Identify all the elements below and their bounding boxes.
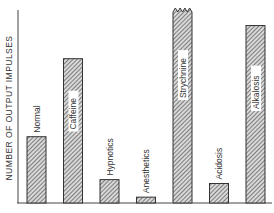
bar-label-normal: Normal: [32, 105, 42, 133]
bar-normal: [27, 137, 46, 203]
bar-label-caffeine: Caffeine: [68, 98, 78, 130]
bar-anesthetics: [137, 197, 156, 203]
bar-label-hypnotics: Hypnotics: [105, 138, 115, 175]
bar-label-alkalosis: Alkalosis: [251, 75, 261, 109]
bars-group: NormalCaffeineHypnoticsAnestheticsStrych…: [27, 8, 265, 203]
bar-label-anesthetics: Anesthetics: [141, 149, 151, 193]
bar-alkalosis: [246, 26, 265, 203]
bar-strychnine: [173, 8, 192, 203]
bar-label-acidosis: Acidosis: [214, 148, 224, 180]
bar-hypnotics: [100, 180, 119, 203]
bar-label-strychnine: Strychnine: [178, 58, 188, 98]
bar-acidosis: [210, 184, 229, 204]
chart-canvas: NormalCaffeineHypnoticsAnestheticsStrych…: [0, 0, 274, 213]
bar-chart: NormalCaffeineHypnoticsAnestheticsStrych…: [0, 0, 274, 213]
